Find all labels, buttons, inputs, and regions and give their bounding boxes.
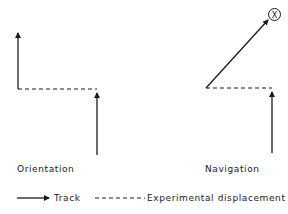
orientation-label: Orientation [17,164,74,174]
goal-marker-icon: X [268,8,281,21]
navigation-label: Navigation [205,164,260,174]
orientation-panel [18,33,97,155]
legend-track-label: Track [54,193,81,203]
navigation-goal-track-arrow [206,20,268,88]
diagram-canvas [0,0,288,214]
navigation-panel [206,20,272,153]
legend-displacement-label: Experimental displacement [147,193,286,203]
